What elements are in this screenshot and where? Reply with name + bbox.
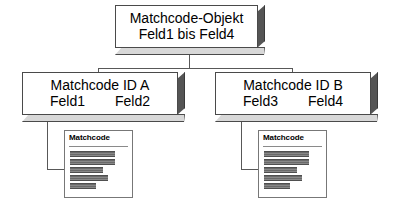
box-shadow-right-face	[257, 5, 265, 48]
matchcode-id-a-title: Matchcode ID A	[51, 78, 150, 94]
box-shadow-right-face	[370, 72, 378, 115]
box-shadow-bottom-face	[115, 47, 265, 55]
matchcode-bar	[70, 151, 115, 157]
matchcode-window-title: Matchcode	[263, 134, 326, 142]
matchcode-result-window-b[interactable]: Matchcode	[258, 130, 327, 198]
connector-root-stem	[189, 55, 190, 69]
matchcode-bar	[264, 151, 309, 157]
matchcode-id-a-fields: Feld1 Feld2	[23, 94, 177, 110]
field-label-left: Feld1	[50, 94, 85, 110]
box-shadow-bottom-face	[22, 114, 185, 122]
connector-id-b-stem	[241, 122, 242, 169]
matchcode-id-b-title: Matchcode ID B	[243, 78, 343, 94]
matchcode-window-title: Matchcode	[69, 134, 132, 142]
matchcode-window-divider	[69, 146, 128, 147]
connector-root-horizontal	[98, 68, 293, 69]
box-front-face: Matchcode-Objekt Feld1 bis Feld4	[115, 5, 258, 48]
matchcode-bar	[264, 159, 309, 165]
matchcode-id-a-box[interactable]: Matchcode ID A Feld1 Feld2	[22, 72, 185, 122]
field-label-left: Feld3	[243, 94, 278, 110]
box-shadow-bottom-face	[215, 114, 378, 122]
matchcode-window-divider	[263, 146, 322, 147]
field-label-right: Feld4	[308, 94, 343, 110]
box-front-face: Matchcode ID A Feld1 Feld2	[22, 72, 178, 115]
matchcode-result-window-a[interactable]: Matchcode	[64, 130, 133, 198]
matchcode-id-b-box[interactable]: Matchcode ID B Feld3 Feld4	[215, 72, 378, 122]
matchcode-bar	[70, 175, 108, 181]
matchcode-objekt-title: Matchcode-Objekt	[130, 11, 244, 27]
connector-id-a-to-window	[47, 169, 65, 170]
matchcode-bar	[264, 167, 297, 173]
matchcode-bar	[264, 183, 290, 189]
box-front-face: Matchcode ID B Feld3 Feld4	[215, 72, 371, 115]
diagram-canvas: Matchcode-Objekt Feld1 bis Feld4 Matchco…	[0, 0, 393, 205]
field-label-right: Feld2	[115, 94, 150, 110]
connector-id-b-to-window	[241, 169, 259, 170]
matchcode-bar	[264, 175, 302, 181]
matchcode-bar-list	[70, 151, 132, 191]
connector-id-a-stem	[47, 122, 48, 169]
matchcode-id-b-fields: Feld3 Feld4	[216, 94, 370, 110]
matchcode-bar-list	[264, 151, 326, 191]
matchcode-objekt-box[interactable]: Matchcode-Objekt Feld1 bis Feld4	[115, 5, 265, 55]
matchcode-bar	[70, 183, 96, 189]
matchcode-bar	[70, 159, 115, 165]
matchcode-bar	[70, 167, 103, 173]
box-shadow-right-face	[177, 72, 185, 115]
matchcode-objekt-subtitle: Feld1 bis Feld4	[139, 27, 235, 43]
